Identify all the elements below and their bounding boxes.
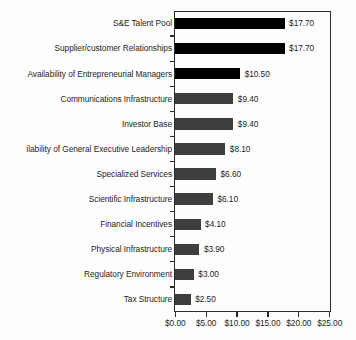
y-axis-tick <box>170 261 175 262</box>
bar-value-label: $6.10 <box>217 195 238 203</box>
bar-and-value: $6.60 <box>175 162 241 187</box>
bar-value-label: $2.50 <box>195 295 216 303</box>
bar-row: Tax Structure$2.50 <box>0 287 356 312</box>
category-label: Specialized Services <box>96 170 172 178</box>
bar <box>175 118 233 129</box>
bar <box>175 68 240 79</box>
x-axis-tick-label: $5.00 <box>196 319 217 327</box>
x-axis-tick <box>329 312 330 317</box>
category-label: ilability of General Executive Leadershi… <box>26 145 172 153</box>
y-axis-tick <box>170 186 175 187</box>
x-axis-tick <box>175 312 176 317</box>
bar-value-label: $9.40 <box>238 120 259 128</box>
bar-and-value: $9.40 <box>175 86 258 111</box>
y-axis-tick <box>170 211 175 212</box>
bar-row: Communications Infrastructure$9.40 <box>0 86 356 111</box>
bar <box>175 269 194 280</box>
bar-row: ilability of General Executive Leadershi… <box>0 136 356 161</box>
bar-and-value: $2.50 <box>175 287 215 312</box>
bar-row: Physical Infrastructure$3.90 <box>0 237 356 262</box>
bar-rows: S&E Talent Pool$17.70Supplier/customer R… <box>0 11 356 312</box>
bar <box>175 43 284 54</box>
category-label: Communications Infrastructure <box>60 95 172 103</box>
bar-and-value: $8.10 <box>175 136 250 161</box>
y-axis-tick <box>170 136 175 137</box>
category-label: Availability of Entrepreneurial Managers <box>27 70 172 78</box>
bar-value-label: $3.90 <box>204 245 225 253</box>
bar-row: Financial Incentives$4.10 <box>0 212 356 237</box>
bar-value-label: $8.10 <box>230 145 251 153</box>
bar-row: Investor Base$9.40 <box>0 111 356 136</box>
x-axis-tick-label: $20.00 <box>286 319 311 327</box>
x-axis-tick <box>298 312 299 317</box>
bar-value-label: $3.00 <box>198 270 219 278</box>
category-label: Scientific Infrastructure <box>89 195 172 203</box>
y-axis-tick <box>170 86 175 87</box>
y-axis-tick <box>170 286 175 287</box>
y-axis-tick <box>170 111 175 112</box>
category-label: S&E Talent Pool <box>113 19 172 27</box>
bar-value-label: $17.70 <box>289 19 314 27</box>
category-label: Investor Base <box>122 120 172 128</box>
bar <box>175 219 200 230</box>
bar-row: Supplier/customer Relationships$17.70 <box>0 36 356 61</box>
y-axis-tick <box>170 35 175 36</box>
x-axis-tick-label: $25.00 <box>317 319 342 327</box>
bar <box>175 18 284 29</box>
bar-value-label: $10.50 <box>245 70 270 78</box>
bar-and-value: $17.70 <box>175 36 314 61</box>
x-axis-tick-label: $10.00 <box>225 319 250 327</box>
y-axis-tick <box>170 61 175 62</box>
bar-value-label: $4.10 <box>205 220 226 228</box>
bar <box>175 93 233 104</box>
bar-value-label: $9.40 <box>238 95 259 103</box>
bar-and-value: $3.90 <box>175 237 224 262</box>
bar-row: S&E Talent Pool$17.70 <box>0 11 356 36</box>
category-label: Physical Infrastructure <box>91 245 172 253</box>
bar <box>175 244 199 255</box>
bar-value-label: $17.70 <box>289 44 314 52</box>
bar-value-label: $6.60 <box>221 170 242 178</box>
x-axis-tick-label: $15.00 <box>255 319 280 327</box>
bar <box>175 294 190 305</box>
bar-and-value: $9.40 <box>175 111 258 136</box>
y-axis-tick <box>170 236 175 237</box>
bar <box>175 168 216 179</box>
bar-and-value: $3.00 <box>175 262 219 287</box>
category-label: Supplier/customer Relationships <box>55 44 172 52</box>
bar-row: Availability of Entrepreneurial Managers… <box>0 61 356 86</box>
x-axis-tick <box>236 312 237 317</box>
y-axis-tick <box>170 161 175 162</box>
bar-row: Scientific Infrastructure$6.10 <box>0 187 356 212</box>
bar-row: Regulatory Environment$3.00 <box>0 262 356 287</box>
bar-and-value: $17.70 <box>175 11 314 36</box>
x-axis-tick-label: $0.00 <box>165 319 186 327</box>
x-axis-tick <box>267 312 268 317</box>
x-axis: $0.00$5.00$10.00$15.00$20.00$25.00 <box>0 312 356 340</box>
bar-row: Specialized Services$6.60 <box>0 162 356 187</box>
bar-and-value: $10.50 <box>175 61 269 86</box>
category-label: Regulatory Environment <box>84 270 172 278</box>
bar-and-value: $4.10 <box>175 212 225 237</box>
category-label: Financial Incentives <box>100 220 172 228</box>
x-axis-tick <box>206 312 207 317</box>
bar <box>175 143 225 154</box>
bar-and-value: $6.10 <box>175 187 238 212</box>
bar-chart: S&E Talent Pool$17.70Supplier/customer R… <box>0 0 356 340</box>
category-label: Tax Structure <box>124 295 172 303</box>
bar <box>175 193 213 204</box>
